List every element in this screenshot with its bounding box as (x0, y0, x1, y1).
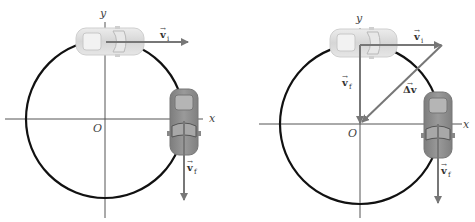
svg-text:v: v (341, 77, 349, 88)
circular-motion-diagram: y x O → v i → v f (0, 0, 475, 222)
right-panel: y x O → v i → v f → Δv → v f (259, 12, 470, 218)
svg-text:v: v (186, 162, 194, 173)
svg-text:v: v (159, 29, 167, 40)
car-top-icon (330, 27, 397, 59)
origin-label: O (348, 127, 357, 140)
x-axis-label: x (209, 112, 216, 125)
svg-text:v: v (440, 165, 448, 176)
label-delta-v: → Δv (403, 80, 418, 95)
y-axis-label: y (99, 7, 107, 20)
svg-text:f: f (448, 171, 452, 179)
svg-text:f: f (194, 168, 198, 176)
svg-text:v: v (413, 31, 421, 42)
svg-text:Δv: Δv (403, 84, 418, 95)
svg-text:i: i (421, 37, 424, 45)
label-v-final: → v f (440, 161, 452, 179)
svg-text:f: f (349, 83, 353, 91)
label-v-final: → v f (186, 158, 198, 176)
label-v-initial: → v i (413, 27, 424, 45)
left-panel: y x O → v i → v f (5, 7, 216, 218)
y-axis-label: y (355, 12, 363, 25)
label-v-final-translated: → v f (341, 73, 353, 91)
label-v-initial: → v i (159, 25, 170, 43)
origin-label: O (93, 122, 102, 135)
x-axis-label: x (463, 118, 470, 131)
